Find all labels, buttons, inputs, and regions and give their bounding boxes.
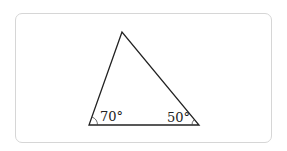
angle-label-left: 70° xyxy=(100,109,123,124)
angle-arc-right xyxy=(192,120,194,125)
triangle-diagram: 70° 50° xyxy=(0,0,287,151)
angle-label-right: 50° xyxy=(167,110,190,125)
angle-arc-left xyxy=(92,117,98,125)
